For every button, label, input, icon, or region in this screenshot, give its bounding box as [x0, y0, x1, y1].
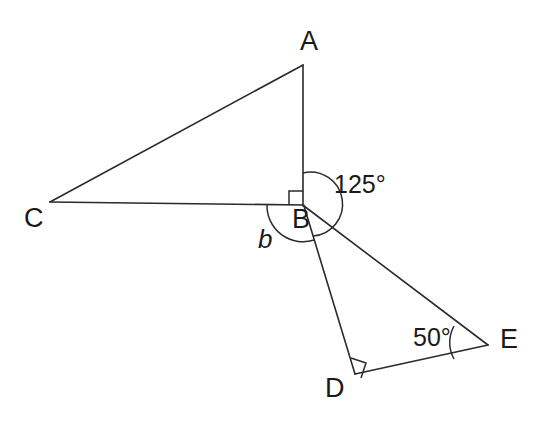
right-angle-marker-B [289, 191, 303, 205]
vertex-label-E: E [500, 326, 518, 353]
vertex-label-B: B [292, 206, 310, 233]
vertex-label-D: D [325, 375, 345, 402]
segment-CB [50, 202, 304, 205]
vertex-label-C: C [24, 205, 44, 232]
vertex-label-A: A [300, 28, 318, 55]
segment-BD [304, 206, 355, 374]
angle-label-125: 125° [334, 172, 386, 197]
figure-canvas [0, 0, 548, 433]
angle-label-b: b [258, 226, 272, 252]
segment-CA [50, 65, 303, 202]
geometry-diagram: A B C D E 125° b 50° [0, 0, 548, 433]
segment-BE [304, 206, 488, 345]
angle-label-50: 50° [413, 325, 451, 350]
